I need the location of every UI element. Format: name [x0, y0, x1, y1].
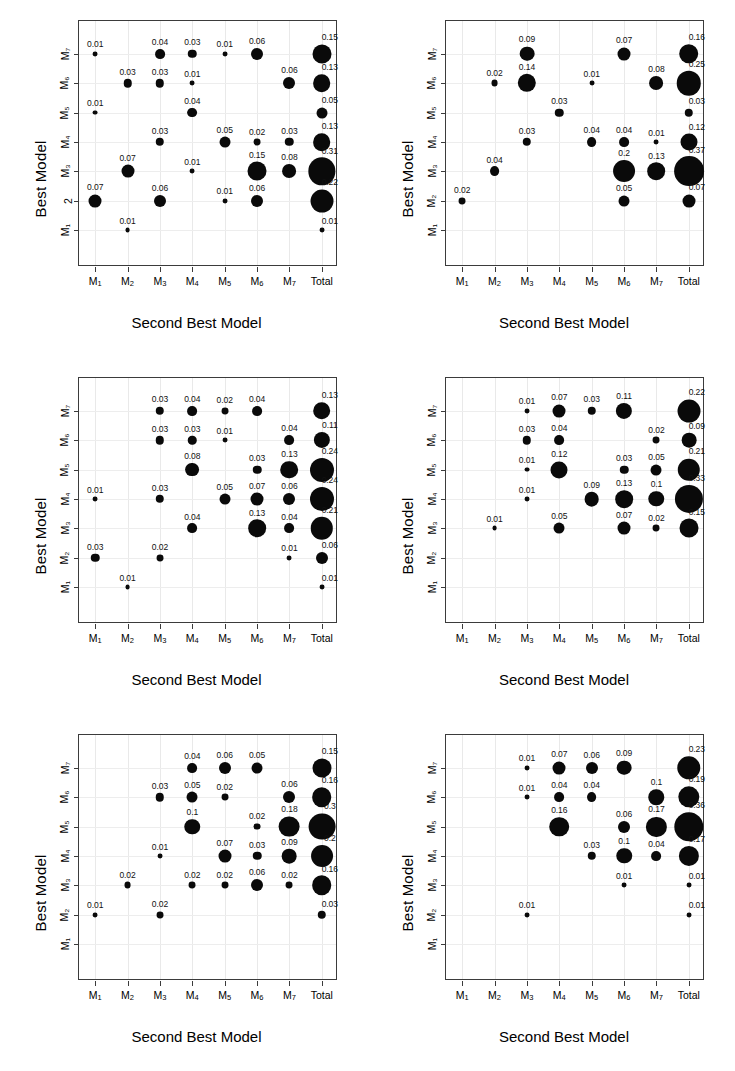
bubble-value-label: 0.09	[584, 480, 600, 490]
y-tick	[441, 885, 446, 886]
bubble-value-label: 0.01	[322, 216, 338, 226]
y-tick	[441, 411, 446, 412]
gridline-horizontal	[446, 885, 703, 886]
y-tick	[441, 768, 446, 769]
y-tick	[74, 201, 79, 202]
bubble-value-label: 0.07	[616, 510, 632, 520]
bubble	[587, 792, 597, 802]
bubble-value-label: 0.03	[87, 542, 103, 552]
bubble-value-label: 0.05	[616, 183, 632, 193]
bubble-value-label: 0.01	[119, 573, 135, 583]
bubble	[551, 461, 568, 478]
y-tick	[74, 142, 79, 143]
y-tick	[74, 587, 79, 588]
y-tick-label-m1: M₁	[410, 224, 438, 236]
bubble	[311, 517, 333, 539]
bubble	[248, 162, 267, 181]
y-tick	[74, 499, 79, 500]
y-tick	[441, 230, 446, 231]
bubble-value-label: 0.05	[184, 780, 200, 790]
bubble	[586, 762, 598, 774]
bubble-value-label: 0.01	[87, 900, 103, 910]
x-axis-title: Second Best Model	[0, 1028, 367, 1045]
figure-panel-grid: Best ModelSecond Best ModelM1M2M3M4M5M6M…	[0, 0, 735, 1071]
bubble	[653, 437, 660, 444]
bubble	[492, 526, 497, 531]
gridline-vertical	[95, 735, 96, 979]
bubble	[222, 438, 227, 443]
y-tick	[441, 558, 446, 559]
y-tick-label-m5: M₅	[410, 821, 438, 833]
bubble-value-label: 0.01	[519, 396, 535, 406]
y-tick-label-m2: M₂	[43, 909, 71, 921]
y-tick-label-m2: 2	[43, 195, 71, 207]
bubble	[677, 71, 702, 96]
x-tick	[128, 624, 129, 629]
bubble-value-label: 0.07	[249, 481, 265, 491]
bubble	[156, 79, 164, 87]
gridline-vertical	[462, 735, 463, 979]
bubble-value-label: 0.13	[322, 121, 338, 131]
bubble-value-label: 0.01	[184, 157, 200, 167]
gridline-horizontal	[446, 915, 703, 916]
y-tick	[441, 856, 446, 857]
bubble-value-label: 0.06	[322, 540, 338, 550]
x-tick	[225, 267, 226, 272]
bubble-value-label: 0.04	[184, 96, 200, 106]
bubble-value-label: 0.14	[519, 62, 535, 72]
bubble	[491, 80, 498, 87]
bubble	[587, 137, 597, 147]
y-tick-label-m4: M₄	[43, 136, 71, 148]
gridline-vertical	[527, 735, 528, 979]
bubble-value-label: 0.2	[324, 833, 336, 843]
y-tick-label-m2: M₂	[410, 195, 438, 207]
bubble-value-label: 0.06	[584, 750, 600, 760]
bubble-value-label: 0.04	[551, 780, 567, 790]
bubble	[125, 228, 130, 233]
y-tick	[74, 470, 79, 471]
gridline-horizontal	[446, 528, 703, 529]
bubble-value-label: 0.04	[184, 512, 200, 522]
x-tick	[559, 267, 560, 272]
bubble	[156, 138, 164, 146]
bubble	[253, 852, 261, 860]
bubble-value-label: 0.01	[87, 39, 103, 49]
y-tick-label-m1: M₁	[410, 581, 438, 593]
y-tick-label-m5: M₅	[43, 464, 71, 476]
gridline-horizontal	[446, 944, 703, 945]
gridline-horizontal	[79, 587, 336, 588]
x-tick	[656, 624, 657, 629]
bubble-value-label: 0.02	[249, 811, 265, 821]
bubble-value-label: 0.03	[519, 424, 535, 434]
y-tick-label-m1: M₁	[43, 581, 71, 593]
x-tick	[257, 267, 258, 272]
y-tick-label-m1: M₁	[43, 224, 71, 236]
x-tick	[322, 267, 323, 272]
y-tick-label-m4: M₄	[410, 493, 438, 505]
plot-area: M1M2M3M4M5M6M7TotalM₁M₂M₃M₄M₅M₆M₇0.010.0…	[445, 377, 704, 623]
y-tick-label-m7: M₇	[43, 405, 71, 417]
bubble	[312, 758, 331, 777]
bubble-panel-6: Best ModelSecond Best ModelM1M2M3M4M5M6M…	[367, 714, 735, 1071]
bubble	[615, 490, 633, 508]
y-tick	[74, 440, 79, 441]
bubble-value-label: 0.02	[281, 870, 297, 880]
bubble-value-label: 0.04	[551, 423, 567, 433]
y-tick-label-m4: M₄	[43, 493, 71, 505]
bubble-value-label: 0.01	[217, 39, 233, 49]
bubble	[121, 165, 134, 178]
bubble-value-label: 0.24	[322, 475, 338, 485]
y-tick	[441, 470, 446, 471]
bubble-value-label: 0.17	[689, 834, 705, 844]
bubble	[187, 108, 197, 118]
bubble	[312, 876, 332, 896]
gridline-horizontal	[79, 856, 336, 857]
bubble-value-label: 0.01	[217, 186, 233, 196]
bubble	[682, 194, 695, 207]
gridline-horizontal	[446, 440, 703, 441]
bubble-value-label: 0.05	[217, 482, 233, 492]
y-tick-label-m5: M₅	[410, 107, 438, 119]
bubble-value-label: 0.16	[322, 775, 338, 785]
bubble	[316, 107, 327, 118]
x-tick	[192, 624, 193, 629]
